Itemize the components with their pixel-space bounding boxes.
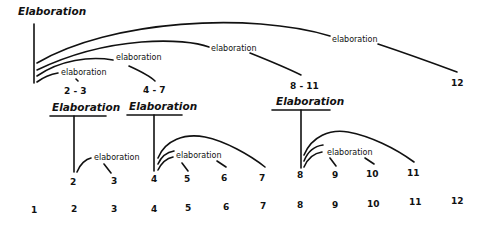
subtree-2-3: Elaboration elaboration 2 3 bbox=[50, 101, 140, 187]
span-12: 12 bbox=[451, 78, 464, 88]
subtree-4-7-elaboration-label: elaboration bbox=[176, 151, 222, 160]
elaboration-label-12: elaboration bbox=[332, 35, 378, 44]
arc-to-12-a bbox=[37, 23, 330, 63]
subtree-8-11: Elaboration elaboration 8 9 10 11 bbox=[272, 95, 420, 180]
arc-to-4-7-b bbox=[129, 66, 155, 81]
arc-to-12-b bbox=[378, 44, 457, 72]
subtree-8-11-sat-9: 9 bbox=[332, 170, 338, 180]
arc-to-6-b bbox=[217, 161, 226, 167]
subtree-8-11-sat-10: 10 bbox=[366, 169, 379, 179]
subtree-2-3-elaboration-label: elaboration bbox=[94, 153, 140, 162]
span-2-3: 2 - 3 bbox=[64, 86, 87, 96]
subtree-8-11-relation-label: Elaboration bbox=[276, 95, 344, 107]
subtree-8-11-sat-11: 11 bbox=[407, 168, 420, 178]
span-8-11: 8 - 11 bbox=[290, 81, 319, 91]
unit-5: 5 bbox=[185, 203, 191, 213]
subtree-2-3-arc-a bbox=[77, 158, 91, 172]
arc-to-9-b bbox=[330, 158, 336, 166]
subtree-2-3-arc-b bbox=[104, 164, 111, 173]
arc-to-8-11-b bbox=[250, 53, 301, 75]
unit-row: 1 2 3 4 5 6 7 8 9 10 11 12 bbox=[31, 196, 464, 215]
elaboration-label-2-3: elaboration bbox=[61, 68, 107, 77]
unit-1: 1 bbox=[31, 205, 37, 215]
unit-9: 9 bbox=[332, 200, 338, 210]
subtree-8-11-elaboration-label: elaboration bbox=[327, 148, 373, 157]
elaboration-label-4-7: elaboration bbox=[116, 53, 162, 62]
unit-2: 2 bbox=[71, 204, 77, 214]
top-tree: Elaboration elaboration elaboration elab… bbox=[18, 5, 464, 96]
subtree-2-3-sat-3: 3 bbox=[111, 176, 117, 186]
unit-11: 11 bbox=[409, 197, 422, 207]
subtree-4-7: Elaboration elaboration 4 5 6 7 bbox=[127, 100, 265, 184]
unit-12: 12 bbox=[451, 196, 464, 206]
subtree-4-7-sat-7: 7 bbox=[259, 173, 265, 183]
subtree-4-7-sat-6: 6 bbox=[221, 173, 227, 183]
arc-to-5-b bbox=[182, 163, 188, 171]
subtree-4-7-sat-5: 5 bbox=[184, 174, 190, 184]
subtree-2-3-relation-label: Elaboration bbox=[52, 101, 120, 113]
subtree-4-7-nucleus: 4 bbox=[151, 174, 157, 184]
unit-8: 8 bbox=[297, 200, 303, 210]
subtree-2-3-nucleus: 2 bbox=[70, 177, 76, 187]
span-4-7: 4 - 7 bbox=[143, 85, 166, 95]
rst-diagram: Elaboration elaboration elaboration elab… bbox=[0, 0, 488, 228]
unit-4: 4 bbox=[151, 204, 157, 214]
subtree-8-11-nucleus: 8 bbox=[297, 170, 303, 180]
unit-6: 6 bbox=[223, 202, 229, 212]
subtree-4-7-relation-label: Elaboration bbox=[129, 100, 197, 112]
top-relation-label: Elaboration bbox=[18, 5, 86, 17]
arc-to-2-3-b bbox=[76, 79, 78, 81]
unit-7: 7 bbox=[260, 201, 266, 211]
arc-to-11 bbox=[304, 131, 414, 162]
unit-3: 3 bbox=[111, 204, 117, 214]
unit-10: 10 bbox=[367, 199, 380, 209]
arc-to-10-b bbox=[365, 158, 374, 164]
elaboration-label-8-11: elaboration bbox=[211, 44, 257, 53]
